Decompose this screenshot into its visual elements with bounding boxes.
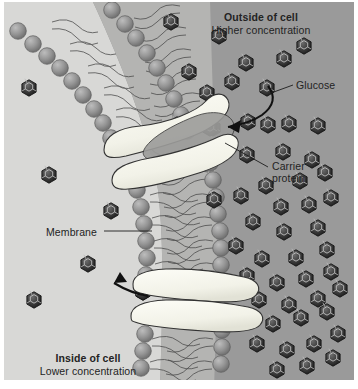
outside-of-cell-title: Outside of cell (196, 11, 326, 23)
carrier-protein-label-line2: protein (272, 172, 305, 184)
inside-of-cell-title: Inside of cell (30, 352, 146, 364)
diagram-body (0, 0, 358, 389)
glucose-label: Glucose (296, 79, 335, 91)
inside-of-cell-subtitle: Lower concentration (22, 365, 154, 377)
membrane-diagram-svg (0, 0, 358, 389)
diagram-canvas: Outside of cell Higher concentration Ins… (0, 0, 358, 389)
membrane-label: Membrane (46, 226, 97, 238)
carrier-protein-label-line1: Carrier (272, 160, 305, 172)
outside-of-cell-subtitle: Higher concentration (196, 24, 326, 36)
